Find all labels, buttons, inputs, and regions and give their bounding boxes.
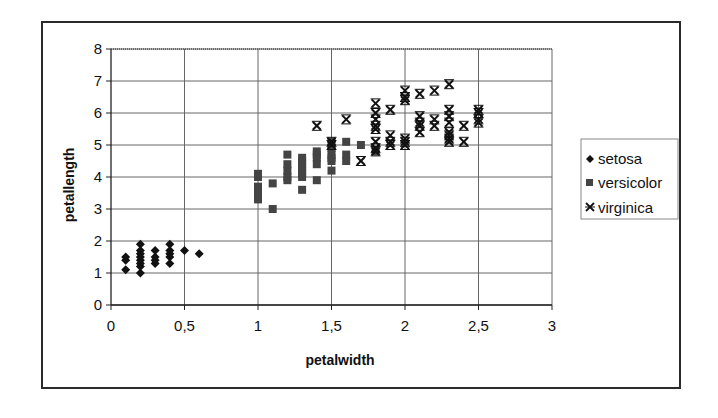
- legend-label: versicolor: [598, 174, 662, 191]
- x-axis-ticks: 00,511,522,53: [107, 305, 556, 334]
- x-tick-label: 1,5: [321, 317, 342, 334]
- series-versicolor: [254, 138, 380, 213]
- data-point: [312, 121, 322, 130]
- y-tick-label: 8: [94, 40, 102, 57]
- x-tick-label: 1: [254, 317, 262, 334]
- x-tick-label: 2,5: [468, 317, 489, 334]
- series-setosa: [121, 240, 204, 278]
- data-point: [254, 183, 262, 191]
- data-point: [342, 138, 350, 146]
- data-point: [151, 246, 160, 255]
- x-tick-label: 0,5: [174, 317, 195, 334]
- legend-label: virginica: [598, 199, 654, 216]
- data-point: [415, 89, 425, 98]
- scatter-chart: 00,511,522,53 012345678 petalwidth petal…: [0, 0, 718, 418]
- square-marker-icon: [586, 179, 593, 186]
- data-point: [429, 86, 439, 95]
- data-point: [254, 170, 262, 178]
- legend-item-versicolor: versicolor: [586, 174, 662, 191]
- x-axis-title: petalwidth: [305, 352, 374, 368]
- x-tick-label: 3: [548, 317, 556, 334]
- y-tick-label: 2: [94, 232, 102, 249]
- data-point: [180, 246, 189, 255]
- data-point: [283, 160, 291, 168]
- x-tick-label: 2: [401, 317, 409, 334]
- y-tick-label: 6: [94, 104, 102, 121]
- y-tick-label: 1: [94, 264, 102, 281]
- x-tick-label: 0: [107, 317, 115, 334]
- y-tick-label: 3: [94, 200, 102, 217]
- gridlines: [111, 49, 552, 305]
- data-point: [341, 115, 351, 124]
- data-point: [342, 151, 350, 159]
- y-tick-label: 7: [94, 72, 102, 89]
- data-points: [121, 80, 483, 278]
- y-tick-label: 0: [94, 296, 102, 313]
- data-point: [385, 131, 395, 140]
- data-point: [269, 179, 277, 187]
- data-point: [356, 157, 366, 166]
- data-point: [328, 167, 336, 175]
- y-tick-label: 5: [94, 136, 102, 153]
- legend: setosa versicolor virginica: [581, 139, 678, 219]
- legend-label: setosa: [598, 150, 643, 167]
- data-point: [269, 205, 277, 213]
- data-point: [298, 154, 306, 162]
- y-axis-ticks: 012345678: [94, 40, 111, 313]
- data-point: [195, 249, 204, 258]
- data-point: [313, 176, 321, 184]
- data-point: [429, 115, 439, 124]
- data-point: [283, 151, 291, 159]
- series-virginica: [312, 80, 484, 166]
- data-point: [313, 147, 321, 155]
- data-point: [298, 186, 306, 194]
- y-axis-title: petallength: [61, 148, 77, 223]
- data-point: [371, 99, 381, 108]
- data-point: [357, 141, 365, 149]
- y-tick-label: 4: [94, 168, 102, 185]
- data-point: [459, 121, 469, 130]
